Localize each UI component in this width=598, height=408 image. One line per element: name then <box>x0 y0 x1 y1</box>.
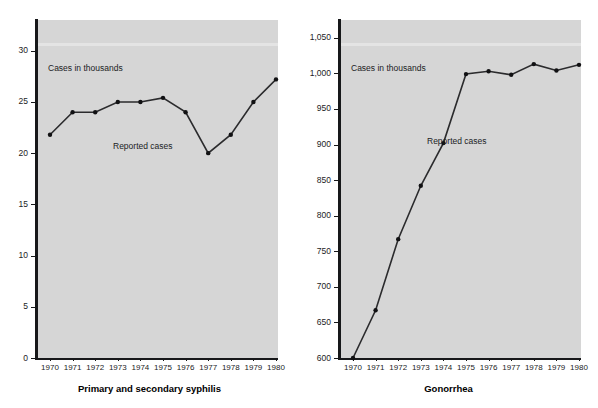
data-point <box>116 100 120 104</box>
series-markers-reported-cases <box>351 62 581 360</box>
series-line-reported-cases <box>353 64 579 358</box>
data-point <box>532 62 536 66</box>
data-point <box>554 68 558 72</box>
caption-syphilis: Primary and secondary syphilis <box>0 383 299 394</box>
series-note-syphilis: Reported cases <box>113 141 173 151</box>
data-point <box>229 133 233 137</box>
data-point <box>351 356 355 360</box>
data-point <box>396 237 400 241</box>
data-point <box>70 110 74 114</box>
panel-syphilis: 051015202530 197019711972197319741975197… <box>0 0 299 408</box>
data-point <box>373 308 377 312</box>
data-point <box>161 96 165 100</box>
series-note-gonorrhea: Reported cases <box>427 136 487 146</box>
data-point <box>48 133 52 137</box>
series-syphilis <box>0 0 300 380</box>
data-point <box>486 69 490 73</box>
data-point <box>464 72 468 76</box>
series-gonorrhea <box>299 0 598 380</box>
data-point <box>138 100 142 104</box>
caption-gonorrhea: Gonorrhea <box>299 383 598 394</box>
data-point <box>183 110 187 114</box>
data-point <box>509 73 513 77</box>
data-point <box>419 184 423 188</box>
figure-two-panel-line-charts: 051015202530 197019711972197319741975197… <box>0 0 598 408</box>
units-note-gonorrhea: Cases in thousands <box>351 63 426 73</box>
units-note-syphilis: Cases in thousands <box>48 63 123 73</box>
data-point <box>251 100 255 104</box>
panel-gonorrhea: 6006507007508008509009501,0001,050 19701… <box>299 0 598 408</box>
data-point <box>206 151 210 155</box>
data-point <box>274 77 278 81</box>
data-point <box>93 110 97 114</box>
data-point <box>577 63 581 67</box>
